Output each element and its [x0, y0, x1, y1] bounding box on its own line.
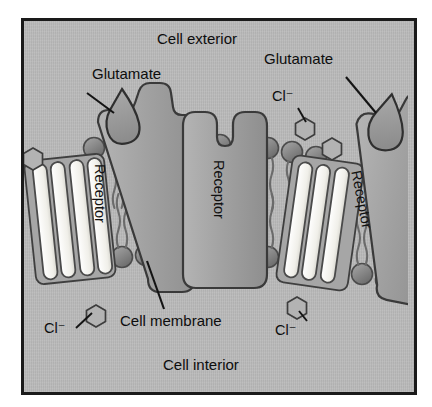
chloride-ion-exterior-left	[24, 148, 43, 170]
label-receptor-middle: Receptor	[211, 160, 227, 219]
glutamate-molecule-left	[106, 89, 139, 144]
label-chloride-bottom-left: Cl⁻	[44, 321, 65, 336]
label-chloride-bottom-right: Cl⁻	[275, 323, 296, 338]
diagram-frame: Cell exterior Glutamate Glutamate Cl⁻ Cl…	[21, 18, 417, 395]
label-receptor-left: Receptor	[92, 164, 108, 223]
label-glutamate-right: Glutamate	[264, 51, 333, 66]
label-glutamate-left: Glutamate	[92, 66, 161, 81]
chloride-ion-exterior-right-2	[323, 138, 342, 160]
label-cell-membrane: Cell membrane	[120, 313, 222, 328]
diagram-figure: Cell exterior Glutamate Glutamate Cl⁻ Cl…	[0, 0, 432, 407]
leader-line-glutamate-left	[87, 93, 114, 113]
leader-line-glutamate-right	[346, 77, 376, 113]
label-cell-exterior: Cell exterior	[157, 31, 237, 46]
label-cell-interior: Cell interior	[163, 357, 239, 372]
label-chloride-top-right: Cl⁻	[272, 89, 293, 104]
